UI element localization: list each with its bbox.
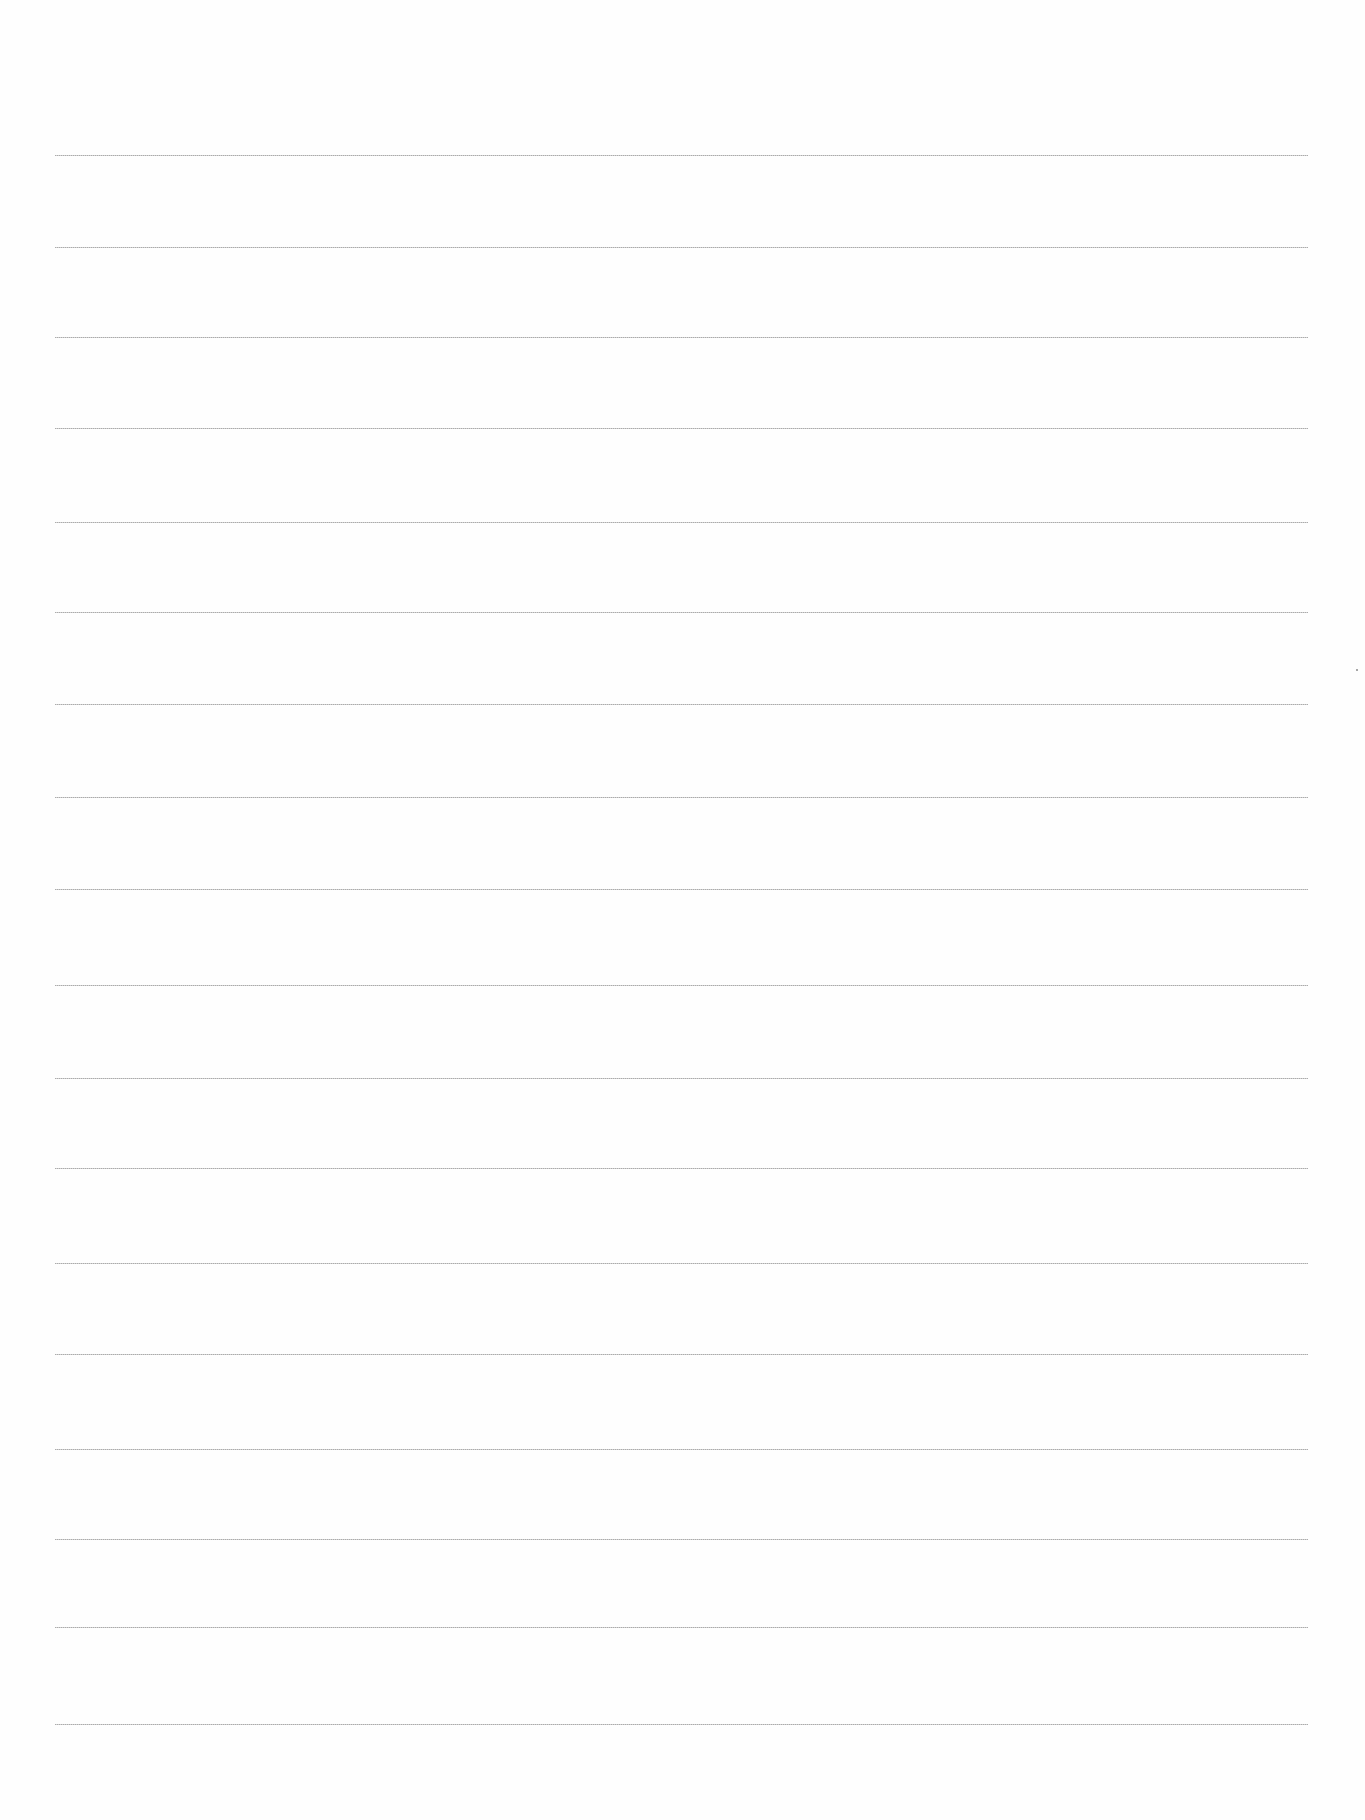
ruled-line: [55, 337, 1308, 338]
ruled-line: [55, 797, 1308, 798]
ruled-line: [55, 155, 1308, 156]
ruled-line: [55, 889, 1308, 890]
ruled-line: [55, 1078, 1308, 1079]
ruled-line: [55, 1263, 1308, 1264]
ruled-line: [55, 522, 1308, 523]
ruled-line: [55, 612, 1308, 613]
ruled-line: [55, 1354, 1308, 1355]
paper-speck: [1356, 669, 1358, 671]
ruled-line: [55, 1168, 1308, 1169]
lined-paper-page: [0, 0, 1365, 1820]
ruled-line: [55, 428, 1308, 429]
ruled-line: [55, 985, 1308, 986]
ruled-line: [55, 1449, 1308, 1450]
ruled-line: [55, 247, 1308, 248]
ruled-line: [55, 1539, 1308, 1540]
ruled-line: [55, 704, 1308, 705]
ruled-line: [55, 1627, 1308, 1628]
ruled-line: [55, 1724, 1308, 1725]
